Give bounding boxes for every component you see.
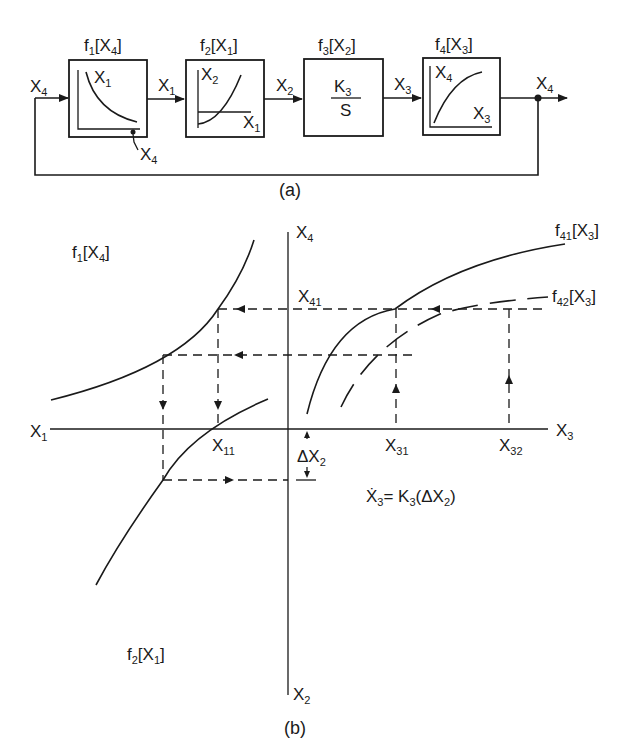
arrow-down-left <box>159 401 167 410</box>
arrow-left-lower <box>234 351 243 359</box>
block-diagram-a: X4 f1[X4] X1 X4 X1 f2[X1] X2 X1 X2 f3[X2… <box>30 35 567 200</box>
delta-x2-arrow-down <box>304 471 310 478</box>
arrow-down-x11 <box>214 401 222 410</box>
signal-x3: X3 <box>394 75 411 96</box>
curve-f41 <box>307 244 565 414</box>
signal-x4-out: X4 <box>536 74 553 95</box>
caption-b: (b) <box>284 718 306 738</box>
curve-f2 <box>96 399 268 585</box>
graph-b: X1 X3 X4 X2 f1[X4] f2[X1] f41[X3] f42[X3… <box>30 221 599 738</box>
curve-f1-label: f1[X4] <box>72 243 110 264</box>
axis-label-x1: X1 <box>30 422 47 443</box>
curve-f42-label: f42[X3] <box>552 287 596 308</box>
arrow-left-upper <box>236 305 245 313</box>
arrow-left-x41 <box>431 305 440 313</box>
signal-x2: X2 <box>276 76 293 97</box>
signal-x4-in: X4 <box>30 77 47 98</box>
signal-x1: X1 <box>158 76 175 97</box>
label-x31: X31 <box>385 436 409 457</box>
axis-label-x2: X2 <box>293 685 310 706</box>
label-delta-x2: ΔX2 <box>297 447 326 468</box>
takeoff-point <box>535 95 542 102</box>
curve-f1 <box>51 240 254 400</box>
arrow-up-x31 <box>392 384 400 393</box>
arrow-up-x32 <box>505 375 513 384</box>
block-f1-x4-note: X4 <box>140 145 157 166</box>
arrow-right-delta <box>225 476 234 484</box>
equation-x3-dot: Ẋ3= K3(ΔX2) <box>366 487 456 508</box>
curve-f41-label: f41[X3] <box>555 221 599 242</box>
block-f3-title: f3[X2] <box>318 36 356 57</box>
label-x11: X11 <box>212 436 235 457</box>
label-x32: X32 <box>499 436 523 457</box>
block-f1-title: f1[X4] <box>84 36 122 57</box>
curve-f42 <box>341 297 548 407</box>
diagram-canvas: X4 f1[X4] X1 X4 X1 f2[X1] X2 X1 X2 f3[X2… <box>0 0 643 753</box>
caption-a: (a) <box>279 180 301 200</box>
curve-f2-label: f2[X1] <box>127 645 165 666</box>
axis-label-x3: X3 <box>556 421 573 442</box>
block-f2-title: f2[X1] <box>200 36 238 57</box>
block-f1 <box>69 60 147 137</box>
delta-x2-arrow-up <box>304 431 310 438</box>
block-f4-title: f4[X3] <box>435 35 473 56</box>
axis-label-x4: X4 <box>296 223 313 244</box>
block-f1-point <box>131 130 136 135</box>
label-x41: X41 <box>298 287 322 308</box>
block-f3-denominator: S <box>340 101 351 120</box>
